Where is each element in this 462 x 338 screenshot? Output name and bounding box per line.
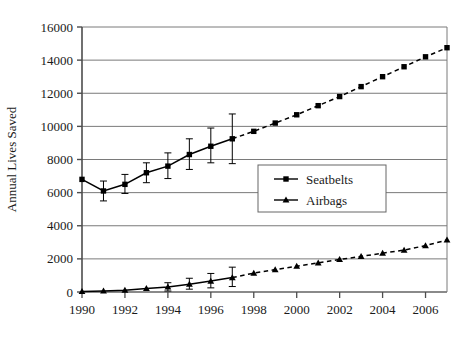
- data-point-marker-seatbelts: [358, 84, 363, 89]
- x-axis-tick-label: 2004: [370, 302, 397, 317]
- y-axis-tick-label: 4000: [47, 218, 73, 233]
- data-point-marker-seatbelts: [251, 129, 256, 134]
- data-point-marker-seatbelts: [144, 170, 149, 175]
- data-point-marker-seatbelts: [79, 177, 84, 182]
- data-point-marker-seatbelts: [122, 182, 127, 187]
- x-axis-tick-label: 1996: [198, 302, 225, 317]
- data-point-marker-seatbelts: [315, 103, 320, 108]
- x-axis-tick-label: 1994: [155, 302, 182, 317]
- data-point-marker-seatbelts: [380, 74, 385, 79]
- y-axis-tick-label: 8000: [47, 152, 73, 167]
- x-axis-tick-label: 1990: [69, 302, 95, 317]
- x-axis-tick-label: 2000: [284, 302, 310, 317]
- data-point-marker-seatbelts: [208, 144, 213, 149]
- annual-lives-saved-line-chart: 0200040006000800010000120001400016000199…: [0, 0, 462, 338]
- data-point-marker-seatbelts: [273, 120, 278, 125]
- legend-marker-seatbelts: [283, 176, 288, 181]
- y-axis-tick-label: 14000: [41, 53, 74, 68]
- data-point-marker-seatbelts: [423, 54, 428, 59]
- data-point-marker-airbags: [422, 242, 429, 248]
- y-axis-tick-label: 10000: [41, 119, 74, 134]
- data-point-marker-seatbelts: [401, 64, 406, 69]
- y-axis-tick-label: 2000: [47, 251, 73, 266]
- data-point-marker-seatbelts: [230, 136, 235, 141]
- y-axis-title: Annual Lives Saved: [4, 106, 19, 212]
- legend-label-seatbelts: Seatbelts: [306, 172, 353, 187]
- data-point-marker-airbags: [444, 237, 451, 243]
- data-point-marker-seatbelts: [444, 45, 449, 50]
- data-point-marker-seatbelts: [165, 163, 170, 168]
- y-axis-tick-label: 12000: [41, 86, 74, 101]
- x-axis-tick-label: 1992: [112, 302, 138, 317]
- y-axis-tick-label: 0: [67, 285, 74, 300]
- x-axis-tick-label: 1998: [241, 302, 267, 317]
- data-point-marker-seatbelts: [337, 94, 342, 99]
- chart-container: 0200040006000800010000120001400016000199…: [0, 0, 462, 338]
- data-point-marker-seatbelts: [294, 112, 299, 117]
- data-point-marker-seatbelts: [101, 188, 106, 193]
- x-axis-tick-label: 2006: [413, 302, 440, 317]
- y-axis-tick-label: 6000: [47, 185, 73, 200]
- data-point-marker-seatbelts: [187, 152, 192, 157]
- data-point-marker-airbags: [272, 266, 279, 272]
- x-axis-tick-label: 2002: [327, 302, 353, 317]
- legend-label-airbags: Airbags: [306, 193, 347, 208]
- y-axis-tick-label: 16000: [41, 20, 74, 35]
